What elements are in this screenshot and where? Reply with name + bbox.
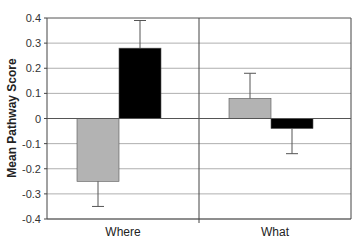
y-tick-label: 0 [35, 113, 41, 125]
y-tick-label: -0.4 [22, 213, 41, 225]
category-labels: WhereWhat [105, 225, 289, 239]
y-tick-labels: 0.40.30.20.10-0.1-0.2-0.3-0.4 [22, 12, 41, 225]
category-label: What [261, 225, 290, 239]
y-tick-label: 0.4 [26, 12, 41, 24]
y-tick-label: 0.2 [26, 62, 41, 74]
y-tick-label: 0.1 [26, 87, 41, 99]
y-tick-label: -0.3 [22, 188, 41, 200]
y-axis-label: Mean Pathway Score [5, 58, 19, 178]
bar-black-where [119, 48, 161, 118]
bar-gray-where [77, 119, 119, 182]
y-tick-label: 0.3 [26, 37, 41, 49]
bars [77, 21, 313, 207]
bar-black-what [271, 119, 313, 129]
y-tick-label: -0.2 [22, 163, 41, 175]
chart: 0.40.30.20.10-0.1-0.2-0.3-0.4 WhereWhat … [0, 0, 360, 244]
category-label: Where [105, 225, 141, 239]
y-tick-label: -0.1 [22, 138, 41, 150]
bar-gray-what [229, 98, 271, 118]
